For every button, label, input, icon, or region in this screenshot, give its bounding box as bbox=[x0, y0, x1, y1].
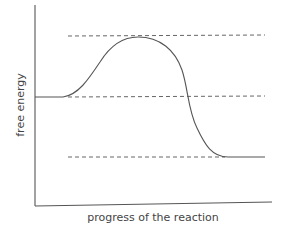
reactant-level-dashed-line bbox=[68, 96, 265, 97]
x-axis bbox=[35, 202, 272, 206]
x-axis-label: progress of the reaction bbox=[87, 211, 219, 224]
transition-state-dashed-line bbox=[68, 35, 265, 36]
y-axis-label: free energy bbox=[14, 73, 27, 137]
energy-diagram: free energy progress of the reaction bbox=[0, 0, 282, 228]
